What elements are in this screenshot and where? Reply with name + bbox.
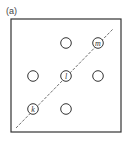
lattice-point-top-mid bbox=[61, 38, 72, 49]
lattice-point-bot-mid bbox=[61, 104, 72, 115]
lattice-point-m: m bbox=[93, 38, 104, 49]
lattice-point-k: k bbox=[28, 104, 39, 115]
lattice-point-mid-right bbox=[93, 71, 104, 82]
lattice-point-l: l bbox=[61, 71, 72, 82]
lattice-diagram: mlk bbox=[0, 0, 129, 141]
svg-text:k: k bbox=[31, 105, 35, 114]
svg-text:m: m bbox=[95, 39, 101, 48]
lattice-point-mid-left bbox=[28, 71, 39, 82]
